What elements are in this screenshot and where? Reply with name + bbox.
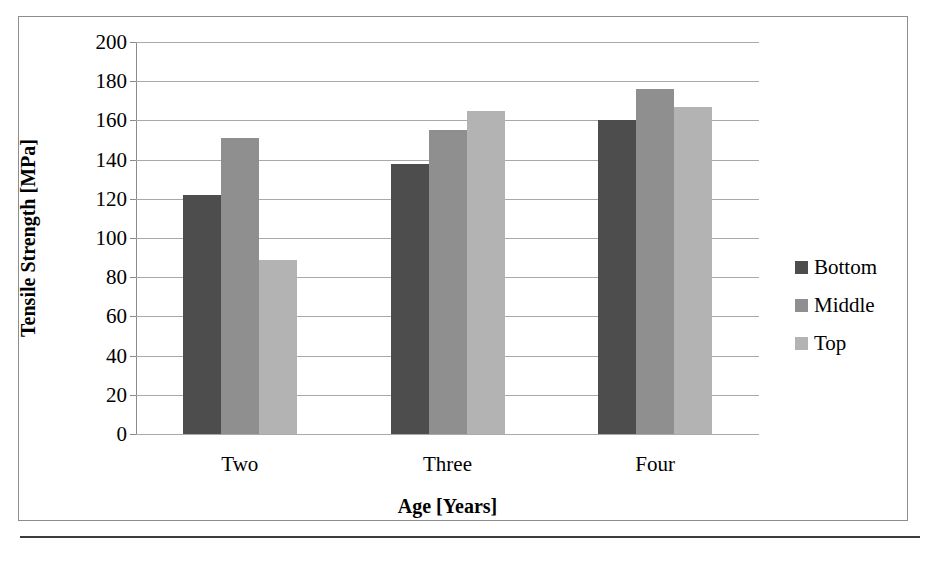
legend-item[interactable]: Top: [795, 324, 905, 362]
bar[interactable]: [259, 260, 297, 434]
bar-chart: Tensile Strength [MPa] 02040608010012014…: [0, 0, 927, 567]
x-tick-label: Two: [221, 452, 258, 477]
plot-area: 020406080100120140160180200 TwoThreeFour: [136, 42, 759, 434]
y-tick-mark: [130, 316, 136, 317]
y-tick-mark: [130, 238, 136, 239]
y-tick-mark: [130, 42, 136, 43]
legend-swatch-icon: [795, 337, 808, 350]
gridline: [136, 434, 759, 435]
bar[interactable]: [598, 120, 636, 434]
bar[interactable]: [391, 164, 429, 434]
legend-item[interactable]: Middle: [795, 286, 905, 324]
y-tick-label: 40: [106, 345, 127, 366]
legend-swatch-icon: [795, 261, 808, 274]
y-tick-mark: [130, 356, 136, 357]
legend-label: Middle: [814, 295, 875, 316]
y-tick-label: 160: [96, 110, 128, 131]
x-axis-title: Age [Years]: [136, 495, 759, 518]
x-tick-label: Three: [423, 452, 472, 477]
y-tick-label: 20: [106, 384, 127, 405]
y-tick-label: 80: [106, 267, 127, 288]
bar[interactable]: [183, 195, 221, 434]
y-tick-label: 0: [117, 424, 128, 445]
bar-group: [391, 42, 505, 434]
legend-item[interactable]: Bottom: [795, 248, 905, 286]
y-tick-label: 60: [106, 306, 127, 327]
legend-label: Top: [814, 333, 846, 354]
bar[interactable]: [429, 130, 467, 434]
bar-group: [183, 42, 297, 434]
y-tick-mark: [130, 277, 136, 278]
y-tick-mark: [130, 81, 136, 82]
bar[interactable]: [636, 89, 674, 434]
x-tick-label: Four: [635, 452, 675, 477]
chart-legend: BottomMiddleTop: [795, 248, 905, 362]
bar[interactable]: [674, 107, 712, 434]
y-tick-label: 140: [96, 149, 128, 170]
y-tick-label: 100: [96, 228, 128, 249]
y-tick-mark: [130, 160, 136, 161]
y-tick-mark: [130, 395, 136, 396]
bar-group: [598, 42, 712, 434]
y-axis-title: Tensile Strength [MPa]: [17, 139, 40, 337]
y-tick-mark: [130, 120, 136, 121]
legend-label: Bottom: [814, 257, 877, 278]
bar[interactable]: [221, 138, 259, 434]
y-tick-label: 200: [96, 32, 128, 53]
y-tick-label: 180: [96, 71, 128, 92]
y-tick-mark: [130, 434, 136, 435]
y-tick-label: 120: [96, 188, 128, 209]
y-tick-mark: [130, 199, 136, 200]
legend-swatch-icon: [795, 299, 808, 312]
bar[interactable]: [467, 111, 505, 434]
